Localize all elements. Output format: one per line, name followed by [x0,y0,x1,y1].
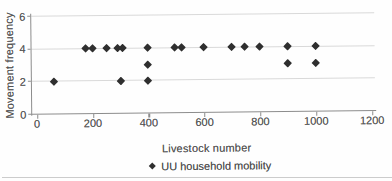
chart-canvas: Movement frequency 024602004006008001000… [0,0,392,181]
page-rule [2,177,392,178]
scatter-chart-figure: Movement frequency 024602004006008001000… [0,0,392,181]
y-tick [27,16,31,17]
x-tick-label: 1200 [360,114,385,126]
data-point [116,77,124,85]
data-point [119,44,127,52]
data-point [102,44,110,52]
data-point [284,42,292,50]
data-point [177,43,185,51]
data-point [311,42,319,50]
y-gridline [32,78,375,83]
data-point [200,43,208,51]
y-gridline [31,12,374,17]
y-tick [28,114,32,115]
x-tick-label: 0 [34,118,40,130]
x-tick-label: 1000 [304,115,329,127]
y-tick [27,81,31,82]
x-tick-label: 600 [195,116,213,128]
y-tick-label: 0 [6,108,26,120]
y-tick-label: 6 [5,10,25,22]
y-tick [27,49,31,50]
data-point [256,43,264,51]
data-point [284,59,292,67]
data-point [144,76,152,84]
y-tick-label: 4 [5,43,25,55]
y-axis-line [30,14,32,116]
y-tick-label: 2 [6,76,26,88]
data-point [144,44,152,52]
x-tick-label: 800 [251,115,269,127]
x-tick-label: 400 [140,116,158,128]
x-tick-label: 200 [84,117,102,129]
legend-label: UU household mobility [161,159,271,172]
data-point [88,44,96,52]
data-point [312,58,320,66]
diamond-marker-icon [149,162,156,169]
data-point [144,60,152,68]
data-point [228,43,236,51]
data-point [240,43,248,51]
data-point [49,77,57,85]
